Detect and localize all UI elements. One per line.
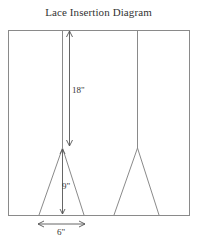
dimension-9-inch: 9" xyxy=(60,149,71,214)
dimension-9-label: 9" xyxy=(62,181,71,191)
right-insertion-triangle xyxy=(114,148,159,215)
dimension-18-label: 18" xyxy=(72,85,85,95)
dimension-6-inch: 6" xyxy=(38,221,85,237)
dimension-18-inch: 18" xyxy=(67,31,86,146)
lace-insertion-diagram: 18" 9" 6" xyxy=(0,0,197,237)
fabric-panel-frame xyxy=(9,31,190,216)
dimension-6-label: 6" xyxy=(57,227,66,237)
right-insertion xyxy=(114,31,159,215)
